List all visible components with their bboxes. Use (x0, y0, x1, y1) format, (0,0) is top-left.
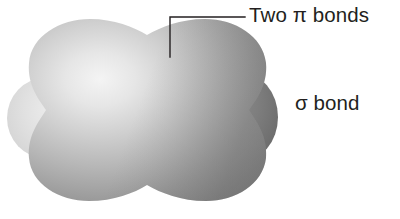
pi-bonds-label: Two π bonds (249, 5, 369, 26)
molecular-orbital-figure: Two π bonds σ bond (0, 0, 400, 219)
gradient-overlay (29, 19, 266, 201)
sigma-bond-label: σ bond (295, 93, 360, 114)
